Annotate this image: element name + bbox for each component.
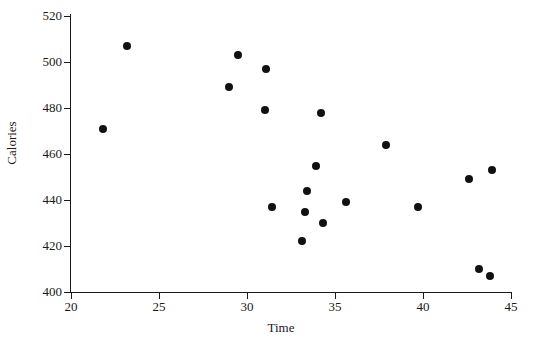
y-tick-label: 400 — [22, 285, 62, 298]
x-axis-line — [70, 292, 512, 293]
data-point — [319, 219, 327, 227]
y-axis-title: Calories — [4, 103, 20, 183]
data-point — [123, 42, 131, 50]
y-tick-label-text: 520 — [24, 9, 62, 22]
x-tick-label: 25 — [139, 300, 179, 313]
data-point — [382, 141, 390, 149]
data-point — [301, 208, 309, 216]
y-tick-label-text: 500 — [24, 55, 62, 68]
y-tick-mark — [64, 62, 70, 63]
data-point — [261, 106, 269, 114]
data-point — [234, 51, 242, 59]
data-point — [317, 109, 325, 117]
y-tick-label-text: 440 — [24, 193, 62, 206]
x-axis-title-text: Time — [268, 320, 295, 336]
data-point — [475, 265, 483, 273]
y-tick-mark — [64, 108, 70, 109]
data-point — [465, 175, 473, 183]
data-point — [225, 83, 233, 91]
y-tick-mark — [64, 200, 70, 201]
scatter-plot-figure: 400420440460480500520 202530354045 Time … — [0, 0, 544, 345]
data-point — [268, 203, 276, 211]
data-point — [312, 162, 320, 170]
y-tick-label: 480 — [22, 101, 62, 114]
y-tick-label-text: 400 — [24, 285, 62, 298]
y-tick-label: 520 — [22, 9, 62, 22]
y-tick-label: 440 — [22, 193, 62, 206]
x-tick-label: 20 — [51, 300, 91, 313]
y-axis-title-text: Calories — [4, 121, 19, 164]
y-tick-label: 460 — [22, 147, 62, 160]
y-tick-label: 420 — [22, 239, 62, 252]
x-axis-title: Time — [0, 320, 544, 336]
x-tick-label: 30 — [227, 300, 267, 313]
data-point — [262, 65, 270, 73]
y-tick-mark — [64, 154, 70, 155]
y-tick-label-text: 460 — [24, 147, 62, 160]
y-tick-mark — [64, 246, 70, 247]
x-tick-label: 35 — [315, 300, 355, 313]
plot-data-area — [71, 16, 511, 292]
data-point — [486, 272, 494, 280]
data-point — [414, 203, 422, 211]
data-point — [298, 237, 306, 245]
y-tick-mark — [64, 292, 70, 293]
y-tick-label: 500 — [22, 55, 62, 68]
data-point — [303, 187, 311, 195]
y-tick-mark — [64, 16, 70, 17]
y-tick-label-text: 480 — [24, 101, 62, 114]
data-point — [488, 166, 496, 174]
data-point — [99, 125, 107, 133]
x-tick-label: 40 — [403, 300, 443, 313]
x-tick-label: 45 — [491, 300, 531, 313]
y-tick-label-text: 420 — [24, 239, 62, 252]
data-point — [342, 198, 350, 206]
